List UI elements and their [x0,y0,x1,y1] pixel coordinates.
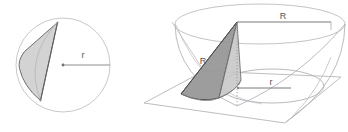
geometry-svg: r [0,0,348,132]
bowl-rim-ellipse [175,4,345,44]
geometry-figure: r [0,0,348,132]
inner-circle-center-dot [237,87,239,89]
cone-apex-vertex-bottom [40,100,42,102]
slant-radius-label-R: R [200,56,207,66]
circle-center-dot [62,64,65,67]
inner-radius-label-r: r [270,77,273,87]
radius-label-r: r [82,50,85,60]
right-panel-group: R R r [144,4,345,123]
left-panel-group: r [16,18,110,112]
top-radius-label-R: R [280,11,287,21]
cone-apex-vertex-top [57,22,59,24]
cone-cross-section-shape [19,23,57,101]
